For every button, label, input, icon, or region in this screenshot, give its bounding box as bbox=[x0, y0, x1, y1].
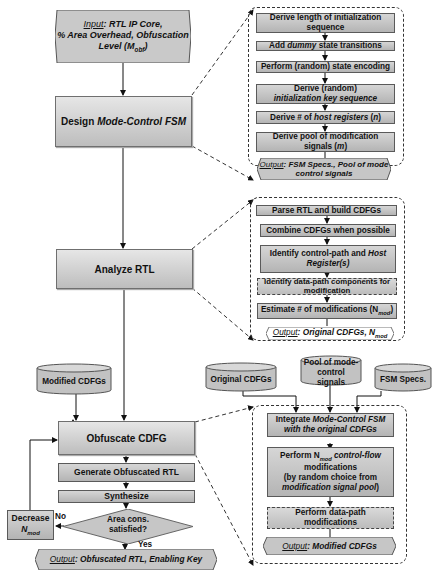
obfuscate-step-2: Perform Nmod control-flow modifications … bbox=[267, 447, 394, 497]
no-label: No bbox=[55, 512, 66, 521]
fsm-step-5: Derive # of host registers (n) bbox=[256, 111, 395, 124]
obfuscate-output: Output: Modified CDFGs bbox=[263, 537, 396, 555]
synthesize-step: Synthesize bbox=[58, 490, 195, 503]
fsm-step-4: Derive (random) initialization key seque… bbox=[256, 84, 395, 104]
generate-rtl-step: Generate Obfuscated RTL bbox=[58, 463, 195, 482]
db-fsm-specs: FSM Specs. bbox=[374, 363, 432, 392]
analyze-step-1: Parse RTL and build CDFGs bbox=[256, 205, 397, 216]
area-decision: Area cons. satisfied? bbox=[63, 509, 193, 544]
db-original-cdfgs: Original CDFGs bbox=[205, 362, 277, 392]
db-pool-signals: Pool of mode-control signals bbox=[300, 355, 362, 386]
design-fsm-step: Design Mode-Control FSM bbox=[55, 96, 192, 147]
analyze-step-4: Identify data-path components for modifi… bbox=[257, 278, 397, 295]
fsm-step-2: Add dummy state transitions bbox=[256, 41, 395, 51]
fsm-output: Output: FSM Specs., Pool of mode control… bbox=[257, 158, 391, 180]
analyze-rtl-step: Analyze RTL bbox=[56, 249, 193, 289]
fsm-step-1: Derive length of initialization sequence bbox=[256, 13, 395, 33]
decrease-nmod-step: Decrease Nmod bbox=[7, 510, 54, 540]
analyze-step-3: Identify control-path and Host Register(… bbox=[260, 245, 396, 273]
analyze-step-5: Estimate # of modifications (Nmod) bbox=[257, 303, 397, 319]
obfuscate-step-1: Integrate Mode-Control FSM with the orig… bbox=[267, 413, 394, 437]
fsm-step-3: Perform (random) state encoding bbox=[256, 61, 395, 73]
analyze-step-2: Combine CDFGs when possible bbox=[260, 224, 396, 237]
obfuscate-cdfg-step: Obfuscate CDFG bbox=[58, 421, 195, 455]
input-label: Input bbox=[84, 19, 104, 29]
analyze-output: Output: Original CDFGs, Nmod bbox=[266, 327, 394, 340]
final-output: Output: Obfuscated RTL, Enabling Key bbox=[35, 549, 217, 570]
db-modified-cdfgs: Modified CDFGs bbox=[36, 363, 112, 395]
obfuscate-step-3: Perform data-path modifications bbox=[267, 507, 394, 529]
input-box: Input: RTL IP Core, % Area Overhead, Obf… bbox=[55, 10, 191, 63]
fsm-step-6: Derive pool of modification signals (m) bbox=[256, 132, 395, 152]
yes-label: Yes bbox=[138, 540, 152, 549]
